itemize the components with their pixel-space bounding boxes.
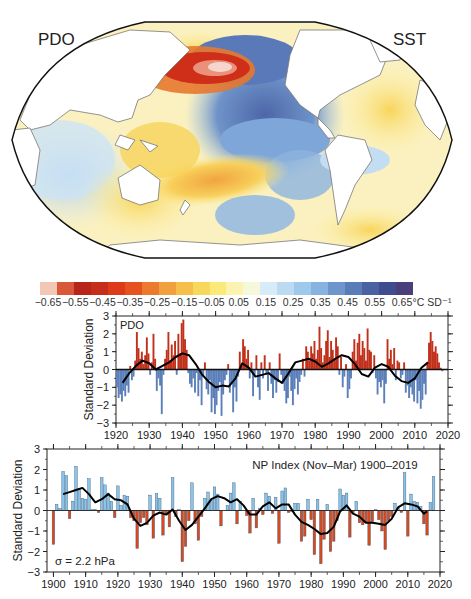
data-bar <box>278 511 281 544</box>
data-bar <box>229 370 231 393</box>
data-bar <box>194 370 196 393</box>
colorbar-swatch <box>396 282 413 295</box>
data-bar <box>358 334 360 370</box>
data-bar <box>392 364 394 369</box>
data-bar <box>315 359 317 370</box>
data-bar <box>124 370 126 397</box>
data-bar <box>400 370 402 379</box>
data-bar <box>368 511 371 546</box>
data-bar <box>158 370 160 379</box>
data-bar <box>182 320 184 370</box>
x-tick-label: 1900 <box>41 578 65 590</box>
data-bar <box>430 332 432 369</box>
data-bar <box>138 348 140 369</box>
data-bar <box>316 499 319 510</box>
data-bar <box>426 511 429 536</box>
data-bar <box>423 370 425 384</box>
colorbar-swatch <box>210 282 227 295</box>
data-bar <box>300 370 302 375</box>
colorbar-swatch <box>108 282 125 295</box>
data-bar <box>143 364 145 369</box>
data-bar <box>363 348 365 369</box>
data-bar <box>368 350 370 370</box>
data-bar <box>323 511 326 540</box>
data-bar <box>174 341 176 370</box>
data-bar <box>209 370 211 381</box>
data-bar <box>406 511 409 537</box>
data-bar <box>156 370 158 391</box>
data-bar <box>192 370 194 379</box>
data-bar <box>116 370 118 388</box>
data-bar <box>420 370 422 409</box>
pdo-time-series-chart: −3−2−10123192019301940195019601970198019… <box>0 305 471 445</box>
colorbar-swatch <box>40 282 57 295</box>
data-bar <box>191 483 194 511</box>
colorbar-swatch <box>277 282 294 295</box>
data-bar <box>378 370 380 382</box>
data-bar <box>55 504 58 510</box>
data-bar <box>343 370 345 377</box>
y-tick-label: 0 <box>34 505 40 517</box>
np-index-time-series-chart: −3−2−10123190019101920193019401950196019… <box>0 440 471 599</box>
data-bar <box>299 370 301 382</box>
data-bar <box>378 511 381 520</box>
data-bar <box>146 337 148 369</box>
map-label-sst: SST <box>393 30 426 50</box>
data-bar <box>211 370 213 413</box>
data-bar <box>181 323 183 369</box>
data-bar <box>307 352 309 370</box>
data-bar <box>411 370 413 395</box>
data-bar <box>181 511 184 562</box>
data-bar <box>292 370 294 406</box>
data-bar <box>121 370 123 402</box>
data-bar <box>403 362 405 369</box>
y-tick-label: −2 <box>96 399 109 411</box>
data-bar <box>410 370 412 388</box>
colorbar-swatch <box>243 282 260 295</box>
data-bar <box>176 370 178 375</box>
x-tick-label: 2000 <box>363 578 387 590</box>
data-bar <box>245 359 247 370</box>
data-bar <box>340 357 342 369</box>
data-bar <box>257 370 259 388</box>
data-bar <box>297 370 299 395</box>
data-bar <box>387 511 390 521</box>
x-tick-label: 1970 <box>267 578 291 590</box>
data-bar <box>264 355 266 369</box>
data-bar <box>259 370 261 400</box>
data-bar <box>390 350 392 370</box>
data-bar <box>313 511 316 555</box>
data-bar <box>220 511 223 526</box>
data-bar <box>189 370 191 384</box>
data-bar <box>383 370 385 404</box>
chart-title-pdo: PDO <box>120 319 144 331</box>
data-bar <box>350 370 352 379</box>
data-bar <box>120 505 123 510</box>
data-bar <box>295 370 297 379</box>
data-bar <box>348 370 350 390</box>
data-bar <box>139 511 142 523</box>
data-bar <box>265 493 268 510</box>
data-bar <box>269 362 271 369</box>
data-bar <box>78 489 81 511</box>
data-bar <box>158 498 161 510</box>
data-bar <box>118 370 120 399</box>
data-bar <box>142 511 145 518</box>
data-bar <box>310 511 313 520</box>
data-bar <box>62 472 65 511</box>
data-bar <box>435 346 437 369</box>
data-bar <box>117 486 120 511</box>
x-tick-label: 2020 <box>428 578 452 590</box>
colorbar-swatch <box>125 282 142 295</box>
data-bar <box>279 353 281 369</box>
data-bar <box>355 501 358 510</box>
data-bar <box>297 503 300 510</box>
data-bar <box>71 501 74 510</box>
colorbar-swatch <box>260 282 277 295</box>
data-bar <box>393 348 395 369</box>
colorbar-swatch <box>362 282 379 295</box>
data-bar <box>339 489 342 511</box>
x-tick-label: 1960 <box>234 578 258 590</box>
colorbar <box>40 282 413 295</box>
y-tick-label: 1 <box>103 346 109 358</box>
